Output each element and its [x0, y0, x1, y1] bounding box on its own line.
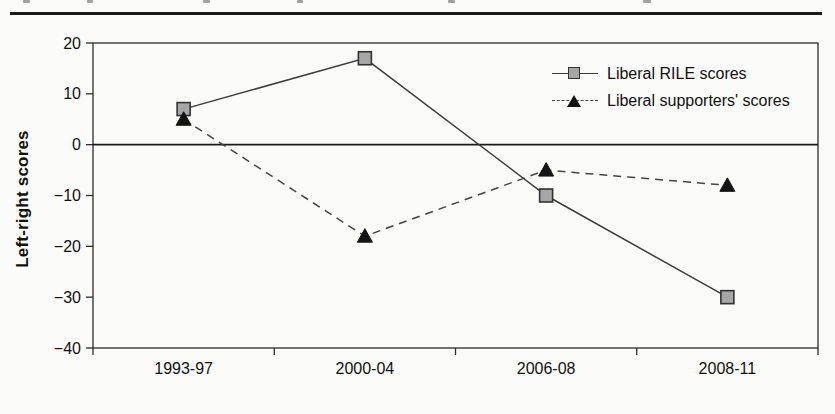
legend-sample-solid-line	[552, 66, 598, 82]
series-line-1	[184, 119, 728, 236]
x-tick-label: 2000-04	[336, 360, 395, 377]
y-tick-label: −30	[54, 289, 81, 306]
x-tick-label: 2006-08	[517, 360, 576, 377]
data-point-square	[721, 291, 734, 304]
data-point-triangle	[539, 163, 554, 177]
x-tick-label: 2008-11	[699, 360, 757, 377]
figure-page: 20100−10−20−30−401993-972000-042006-0820…	[0, 0, 835, 414]
x-tick-label: 1993-97	[154, 360, 213, 377]
triangle-marker-icon	[567, 95, 581, 107]
legend-item-liberal-supporters: Liberal supporters' scores	[552, 91, 822, 111]
data-point-triangle	[720, 178, 735, 192]
y-tick-label: −10	[54, 187, 81, 204]
data-point-square	[540, 189, 553, 202]
legend-label: Liberal RILE scores	[607, 65, 747, 83]
legend-label: Liberal supporters' scores	[607, 92, 790, 110]
y-tick-label: −20	[54, 238, 81, 255]
y-axis-title: Left-right scores	[13, 44, 35, 354]
y-tick-label: 20	[63, 35, 81, 52]
y-tick-label: 0	[72, 136, 81, 153]
y-tick-label: −40	[54, 340, 81, 357]
data-point-triangle	[357, 229, 372, 243]
data-point-square	[358, 52, 371, 65]
y-tick-label: 10	[63, 85, 81, 102]
legend: Liberal RILE scores Liberal supporters' …	[552, 64, 822, 118]
legend-item-liberal-rile: Liberal RILE scores	[552, 64, 822, 84]
legend-sample-dashed-line	[552, 93, 598, 109]
line-chart: 20100−10−20−30−401993-972000-042006-0820…	[0, 0, 835, 414]
square-marker-icon	[568, 67, 580, 79]
